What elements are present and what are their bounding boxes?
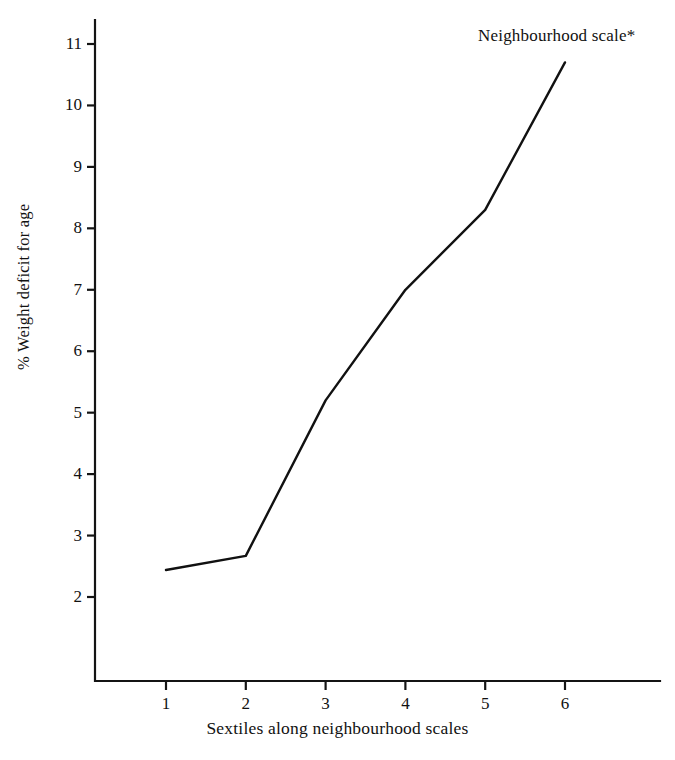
chart-container: 234567891011 123456 % Weight deficit for…: [0, 0, 675, 760]
y-axis-tick-label: 9: [40, 157, 82, 177]
y-axis-tick-label: 3: [40, 526, 82, 546]
series-group: [166, 62, 565, 570]
y-axis-tick-label: 4: [40, 464, 82, 484]
y-axis-tick-label: 5: [40, 403, 82, 423]
axes-group: [87, 20, 660, 690]
y-axis-title: % Weight deficit for age: [14, 204, 34, 370]
y-axis-tick-label: 11: [40, 34, 82, 54]
chart-canvas: [0, 0, 675, 760]
series-label-annotation: Neighbourhood scale*: [478, 26, 635, 46]
axis-lines: [95, 20, 660, 681]
x-axis-tick-label: 4: [401, 694, 410, 714]
x-axis-title: Sextiles along neighbourhood scales: [0, 718, 675, 739]
line-series-neighbourhood-scale: [166, 62, 565, 570]
y-axis-tick-label: 6: [40, 341, 82, 361]
x-axis-ticks: [166, 681, 565, 690]
x-axis-tick-label: 5: [481, 694, 490, 714]
y-axis-tick-label: 7: [40, 280, 82, 300]
y-axis-tick-label: 2: [40, 587, 82, 607]
x-axis-tick-label: 6: [561, 694, 570, 714]
y-axis-tick-label: 8: [40, 218, 82, 238]
x-axis-tick-label: 3: [321, 694, 330, 714]
x-axis-tick-label: 1: [162, 694, 171, 714]
x-axis-tick-label: 2: [242, 694, 251, 714]
y-axis-ticks: [87, 44, 95, 597]
y-axis-tick-label: 10: [40, 95, 82, 115]
